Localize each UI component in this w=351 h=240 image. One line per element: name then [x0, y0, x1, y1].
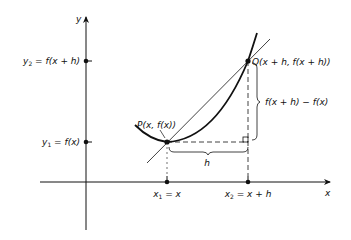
right-angle-marker — [243, 137, 248, 142]
x2-label: x2 = x + h — [224, 189, 272, 200]
y2-label: y2 = f(x + h) — [22, 56, 80, 67]
point-p-pointer — [160, 130, 165, 138]
point-q-label: Q(x + h, f(x + h)) — [252, 57, 331, 67]
x2-dot — [246, 180, 251, 185]
point-p-label: P(x, f(x)) — [137, 120, 176, 130]
x1-dot — [165, 180, 170, 185]
y-axis-label: y — [75, 14, 82, 24]
y2-dot — [84, 59, 89, 64]
point-q — [245, 58, 250, 63]
brace-horizontal-label: h — [204, 158, 210, 168]
diagram-canvas: y x y2 = f(x + h) y1 = f(x) x1 = x x2 = … — [0, 0, 351, 240]
x-axis-label: x — [324, 188, 331, 198]
point-p — [164, 139, 169, 144]
brace-vertical — [252, 63, 260, 140]
y1-dot — [84, 140, 89, 145]
x1-label: x1 = x — [152, 189, 181, 200]
brace-horizontal — [169, 147, 248, 155]
brace-vertical-label: f(x + h) − f(x) — [265, 97, 328, 107]
y1-label: y1 = f(x) — [41, 137, 80, 148]
